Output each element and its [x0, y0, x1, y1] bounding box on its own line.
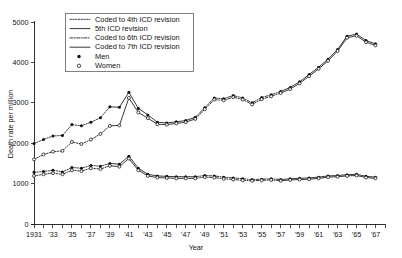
x-tick-label: 1931 [26, 230, 42, 239]
data-point-marker [260, 179, 263, 182]
legend-label: Women [95, 61, 120, 70]
data-point-marker [70, 123, 73, 126]
data-point-marker [374, 177, 377, 180]
data-point-marker [33, 158, 36, 161]
x-tick-label: '61 [314, 230, 323, 239]
data-point-marker [346, 36, 349, 39]
data-point-marker [232, 178, 235, 181]
x-tick-label: '41 [124, 230, 133, 239]
data-point-marker [241, 98, 244, 101]
data-point-marker [184, 177, 187, 180]
data-point-marker [222, 99, 225, 102]
data-point-marker [70, 140, 73, 143]
x-tick-label: '49 [200, 230, 209, 239]
data-point-marker [298, 178, 301, 181]
data-point-marker [118, 106, 121, 109]
x-tick-label: '51 [219, 230, 228, 239]
data-point-marker [89, 138, 92, 141]
data-point-marker [365, 176, 368, 179]
data-point-marker [33, 142, 36, 145]
data-point-marker [146, 174, 149, 177]
data-point-marker [194, 117, 197, 120]
legend-label: Coded to 4th ICD revision [95, 15, 180, 24]
data-point-marker [317, 67, 320, 70]
legend-men-marker [77, 55, 80, 58]
x-tick-label: '37 [86, 230, 95, 239]
data-point-marker [127, 91, 130, 94]
data-point-marker [108, 124, 111, 127]
data-point-marker [346, 174, 349, 177]
data-point-marker [270, 95, 273, 98]
data-point-marker [146, 113, 149, 116]
chart-figure: 010002000300040005000 1931'33'35'37'39'4… [0, 0, 402, 258]
y-tick-label: 0 [25, 220, 29, 229]
legend-women-marker [77, 64, 80, 67]
legend-label: Coded to 6th ICD revision [95, 33, 180, 42]
x-tick-label: '39 [105, 230, 114, 239]
data-point-marker [327, 176, 330, 179]
data-point-marker [194, 177, 197, 180]
x-tick-label: '43 [143, 230, 152, 239]
data-point-marker [61, 149, 64, 152]
data-point-marker [61, 173, 64, 176]
x-tick-label: '63 [333, 230, 342, 239]
data-point-marker [289, 88, 292, 91]
data-point-marker [251, 179, 254, 182]
data-point-marker [374, 44, 377, 47]
data-point-marker [203, 108, 206, 111]
data-point-marker [279, 179, 282, 182]
data-point-marker [89, 167, 92, 170]
x-tick-label: '65 [352, 230, 361, 239]
legend-label: Coded to 7th ICD revision [95, 42, 180, 51]
data-point-marker [298, 82, 301, 85]
data-point-marker [355, 174, 358, 177]
data-point-marker [118, 124, 121, 127]
data-point-marker [99, 116, 102, 119]
x-tick-label: '33 [48, 230, 57, 239]
data-point-marker [137, 169, 140, 172]
x-tick-label: '59 [295, 230, 304, 239]
data-point-marker [270, 178, 273, 181]
data-point-marker [327, 59, 330, 62]
x-tick-label: '67 [371, 230, 380, 239]
data-point-marker [156, 176, 159, 179]
data-point-marker [33, 171, 36, 174]
data-point-marker [213, 98, 216, 101]
data-point-marker [336, 50, 339, 53]
data-point-marker [279, 92, 282, 95]
data-point-marker [127, 157, 130, 160]
data-point-marker [317, 177, 320, 180]
data-point-marker [108, 105, 111, 108]
data-point-marker [80, 170, 83, 173]
x-tick-label: '53 [238, 230, 247, 239]
data-point-marker [213, 176, 216, 179]
data-point-marker [89, 121, 92, 124]
x-tick-label: '55 [257, 230, 266, 239]
x-axis-label: Year [189, 243, 204, 252]
chart-background [0, 0, 402, 258]
data-point-marker [61, 134, 64, 137]
data-point-marker [336, 175, 339, 178]
y-tick-label: 5000 [13, 18, 29, 27]
data-point-marker [42, 138, 45, 141]
data-point-marker [308, 178, 311, 181]
data-point-marker [365, 41, 368, 44]
data-point-marker [42, 153, 45, 156]
data-point-marker [127, 96, 130, 99]
x-tick-label: '57 [276, 230, 285, 239]
data-point-marker [51, 150, 54, 153]
data-point-marker [146, 117, 149, 120]
x-tick-label: '45 [162, 230, 171, 239]
data-point-marker [118, 165, 121, 168]
data-point-marker [241, 179, 244, 182]
data-point-marker [260, 98, 263, 101]
data-point-marker [80, 143, 83, 146]
data-point-marker [70, 169, 73, 172]
legend-label: 5th ICD revision [95, 24, 148, 33]
data-point-marker [51, 134, 54, 137]
y-tick-label: 4000 [13, 58, 29, 67]
data-point-marker [165, 123, 168, 126]
data-point-marker [232, 96, 235, 99]
chart-legend: Coded to 4th ICD revision5th ICD revisio… [66, 14, 194, 72]
data-point-marker [33, 174, 36, 177]
